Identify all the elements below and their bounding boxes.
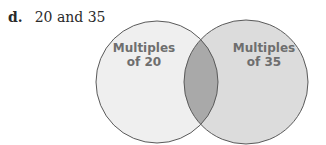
right-set-label-line2: of 35 — [247, 55, 281, 69]
left-set-label-line2: of 20 — [127, 55, 161, 69]
left-set-label-line1: Multiples — [113, 41, 175, 55]
right-set-label-line1: Multiples — [233, 41, 295, 55]
venn-diagram: Multiples of 20 Multiples of 35 — [0, 0, 326, 145]
